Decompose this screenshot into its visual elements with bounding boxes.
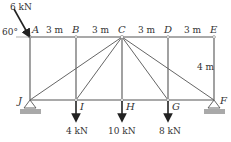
node-label-I: I — [79, 101, 85, 112]
dimension-DE: 3 m — [184, 25, 202, 35]
member-CG — [122, 37, 168, 100]
load-label-A: 6 kN — [10, 2, 32, 12]
pin-support-J — [20, 100, 41, 114]
member-CI — [76, 37, 122, 100]
node-label-C: C — [118, 24, 126, 35]
load-label-I: 4 kN — [66, 126, 88, 136]
dimension-CD: 3 m — [138, 25, 156, 35]
dimension-height: 4 m — [197, 62, 215, 72]
angle-label-A: 60° — [2, 27, 18, 37]
node-label-J: J — [16, 95, 23, 106]
node-label-H: H — [125, 101, 135, 112]
node-label-D: D — [163, 24, 172, 35]
node-label-E: E — [209, 24, 218, 35]
load-label-H: 10 kN — [108, 126, 136, 136]
load-label-G: 8 kN — [159, 126, 181, 136]
node-label-A: A — [31, 24, 39, 35]
node-label-G: G — [172, 101, 180, 112]
node-label-B: B — [71, 24, 79, 35]
dimension-AB: 3 m — [46, 25, 64, 35]
dimension-BC: 3 m — [92, 25, 110, 35]
node-label-F: F — [219, 95, 228, 106]
truss-diagram: A B C D E J I H G F 3 m 3 m 3 m 3 m 4 m … — [0, 0, 231, 142]
